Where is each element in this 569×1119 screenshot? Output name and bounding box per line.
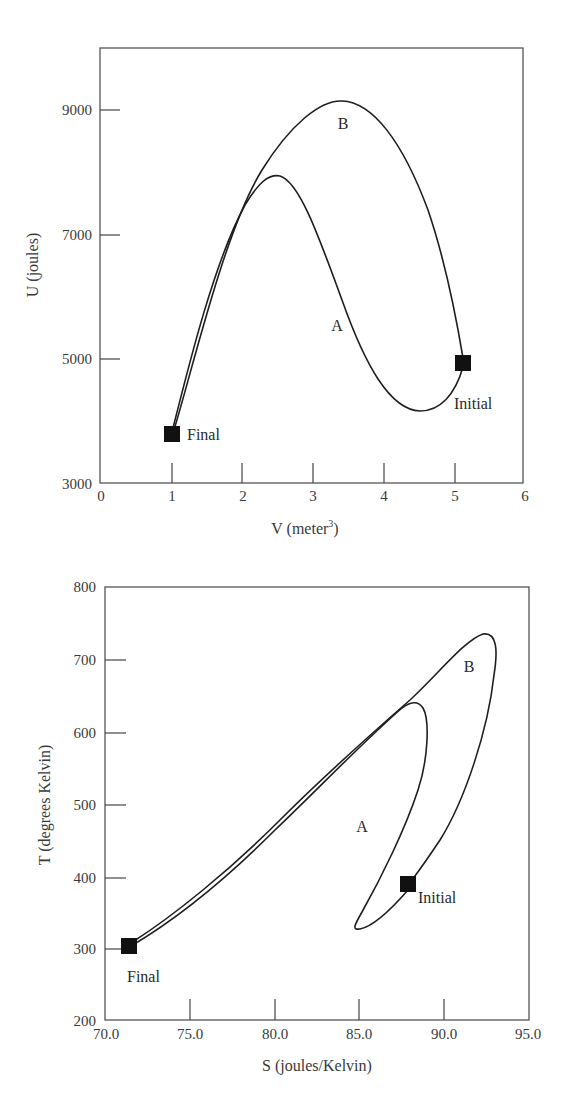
curve-b-label-top: B — [338, 115, 349, 132]
top-y-axis-title: U (joules) — [24, 233, 42, 297]
top-x-tick-label: 4 — [380, 488, 388, 504]
final-label-bottom: Final — [127, 968, 160, 985]
bottom-y-tick-label: 800 — [74, 579, 97, 595]
curve-a-bottom — [131, 703, 427, 946]
curve-b-label-bottom: B — [464, 658, 475, 675]
curve-b-top — [174, 101, 463, 430]
final-label-top: Final — [187, 426, 220, 443]
top-y-tick-label: 3000 — [62, 476, 92, 492]
top-x-tick-label: 5 — [451, 488, 459, 504]
bottom-y-tick-label: 300 — [74, 941, 97, 957]
bottom-x-tick-label: 80.0 — [262, 1026, 288, 1042]
top-chart: 9000 7000 5000 3000 0 1 2 3 4 5 6 U (jou… — [24, 48, 529, 538]
bottom-x-tick-label: 70.0 — [93, 1026, 119, 1042]
top-x-tick-label: 3 — [309, 488, 317, 504]
final-marker-top — [164, 426, 180, 442]
bottom-x-tick-label: 85.0 — [346, 1026, 372, 1042]
curve-a-top — [172, 176, 463, 432]
bottom-x-tick-label: 75.0 — [177, 1026, 203, 1042]
top-x-tick-label: 1 — [168, 488, 176, 504]
final-marker-bottom — [121, 938, 137, 954]
top-y-tick-label: 7000 — [62, 227, 92, 243]
figure-canvas: 9000 7000 5000 3000 0 1 2 3 4 5 6 U (jou… — [0, 0, 569, 1119]
bottom-y-tick-label: 400 — [74, 870, 97, 886]
initial-marker-bottom — [400, 876, 416, 892]
curve-a-label-bottom: A — [356, 818, 368, 835]
initial-label-top: Initial — [454, 395, 493, 412]
bottom-y-tick-label: 700 — [74, 652, 97, 668]
top-y-tick-label: 9000 — [62, 102, 92, 118]
top-x-tick-label: 0 — [97, 488, 105, 504]
bottom-x-tick-label: 90.0 — [431, 1026, 457, 1042]
bottom-y-axis-title: T (degrees Kelvin) — [36, 745, 54, 866]
top-x-axis-title: V (meter3) — [271, 518, 338, 538]
top-x-tick-label: 2 — [239, 488, 247, 504]
top-x-tick-label: 6 — [521, 488, 529, 504]
bottom-y-tick-label: 500 — [74, 797, 97, 813]
curve-a-label-top: A — [331, 317, 343, 334]
initial-label-bottom: Initial — [418, 889, 457, 906]
bottom-chart: 800 700 600 500 400 300 200 70.0 75.0 80… — [36, 579, 541, 1075]
bottom-y-tick-label: 600 — [74, 725, 97, 741]
top-y-tick-label: 5000 — [62, 351, 92, 367]
bottom-x-tick-label: 95.0 — [515, 1026, 541, 1042]
bottom-x-axis-title: S (joules/Kelvin) — [262, 1057, 372, 1075]
initial-marker-top — [455, 355, 471, 371]
bottom-plot-frame — [105, 587, 529, 1020]
